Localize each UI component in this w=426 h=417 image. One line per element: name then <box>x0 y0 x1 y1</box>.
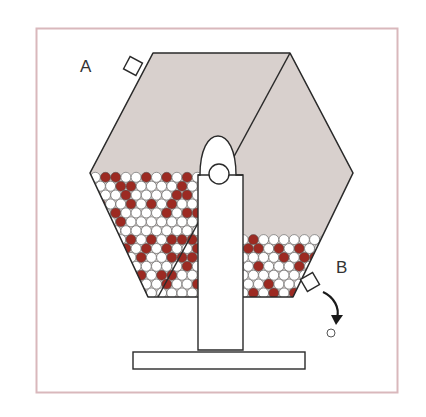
axle-icon <box>209 164 229 184</box>
base-plate <box>133 352 305 369</box>
exit-arrow-icon <box>323 292 343 325</box>
hatch-a <box>124 57 143 76</box>
dispensed-ball <box>327 329 335 337</box>
lottery-drum-figure: A B <box>0 0 426 417</box>
label-b: B <box>336 258 347 277</box>
label-a: A <box>80 57 92 76</box>
